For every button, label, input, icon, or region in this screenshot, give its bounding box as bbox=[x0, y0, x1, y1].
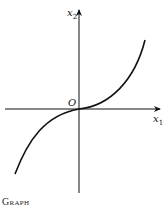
figure-caption: Graph bbox=[2, 196, 29, 207]
x1-axis-label: x1 bbox=[153, 113, 163, 127]
graph-figure: O x2 x1 bbox=[0, 0, 164, 196]
x2-axis-label: x2 bbox=[67, 7, 77, 21]
cubic-curve bbox=[15, 40, 145, 174]
origin-label: O bbox=[68, 97, 76, 108]
